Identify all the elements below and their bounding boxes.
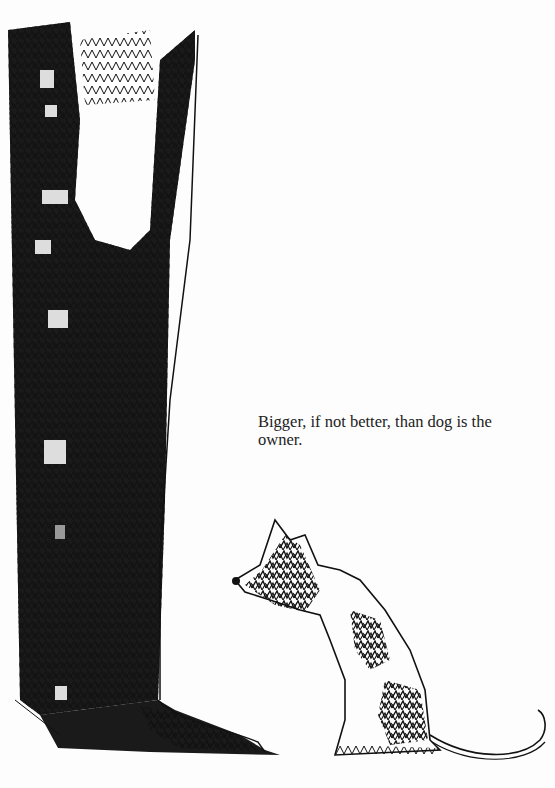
dog [232, 520, 545, 759]
owner-leg [8, 22, 198, 715]
caption: Bigger, if not better, than dog is the o… [258, 413, 498, 449]
owner-and-dog-illustration [0, 0, 555, 788]
book-page: Bigger, if not better, than dog is the o… [0, 0, 555, 788]
